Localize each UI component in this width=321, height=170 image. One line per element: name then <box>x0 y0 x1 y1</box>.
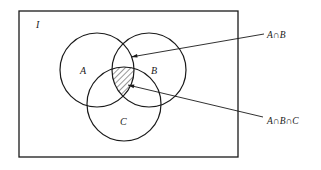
set-a-label: A <box>79 65 87 76</box>
a-intersect-b-intersect-c-leader-line <box>128 85 263 117</box>
a-intersect-b-intersect-c-label: A∩B∩C <box>266 116 299 126</box>
a-intersect-b-label: A∩B <box>266 30 286 40</box>
a-intersect-b-leader-line <box>131 34 264 57</box>
a-intersect-b-arrow-icon <box>131 54 138 58</box>
universe-label: I <box>35 19 40 30</box>
venn-diagram: I A B C A∩B A∩B∩C <box>0 0 321 170</box>
set-c-label: C <box>120 116 127 127</box>
set-b-label: B <box>151 65 157 76</box>
